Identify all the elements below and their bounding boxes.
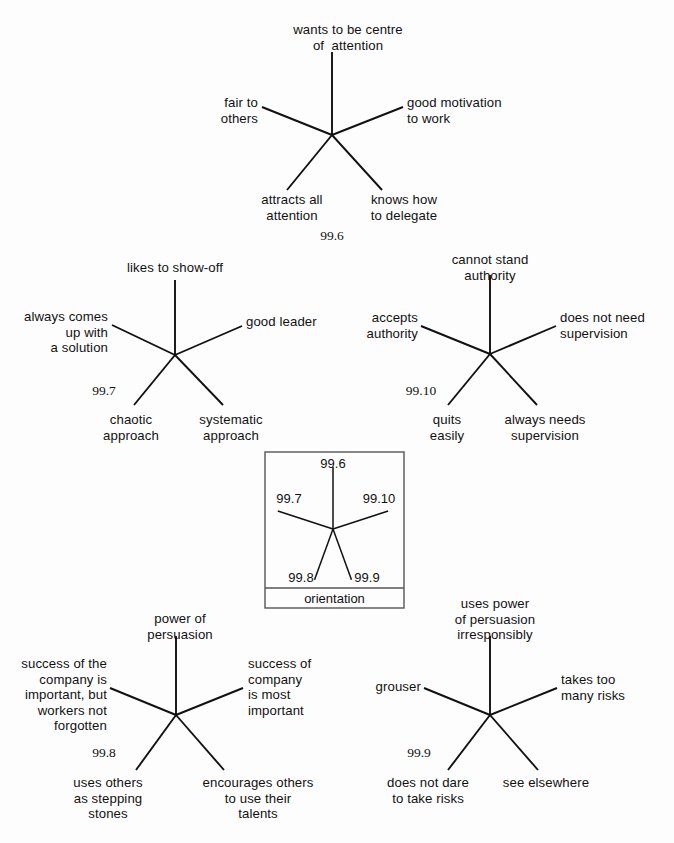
ray-label-lower-right: encourages othersto use theirtalents [203,775,314,822]
star-ray-upper-left [112,325,175,355]
ray-label-lower-left: chaoticapproach [103,412,159,443]
ray-label-lower-left: quitseasily [430,412,464,443]
star-ray-lower-left [287,135,332,190]
ray-label-lower-left: does not dareto take risks [387,775,469,806]
ray-label-lower-right: knows howto delegate [371,192,437,223]
star-ray-upper-left [424,688,490,715]
star-ray-lower-right [332,135,382,190]
star-ray-upper-right [490,688,557,715]
star-ray-upper-right [490,326,556,354]
star-ray-upper-right [176,688,243,715]
ray-label-top: cannot standauthority [452,252,529,283]
legend-ray-99.8 [315,529,333,580]
ray-label-lower-left: attracts allattention [261,192,322,223]
ray-label-lower-left: uses othersas steppingstones [73,775,142,822]
figure-sheet: wants to be centreof attentionfair tooth… [0,0,674,843]
figure-number: 99.9 [407,745,431,761]
legend-ray-99.9 [333,529,351,580]
star-ray-upper-right [332,107,403,135]
legend-label-99.7: 99.7 [276,491,301,506]
star-ray-upper-left [262,107,332,135]
figure-number: 99.10 [406,383,436,399]
legend-ray-99.10 [333,511,388,529]
star-ray-lower-right [175,355,223,405]
ray-label-upper-left: acceptsauthority [367,310,418,341]
legend-label-99.6: 99.6 [320,456,345,471]
legend-title: orientation [304,591,365,606]
legend-label-99.8: 99.8 [288,570,313,585]
ray-label-upper-left: always comesup witha solution [24,309,108,356]
star-ray-lower-left [448,715,490,770]
ray-label-upper-right: takes toomany risks [561,672,625,703]
ray-label-upper-right: good motivationto work [407,95,502,126]
ray-label-top: wants to be centreof attention [293,22,403,53]
star-ray-lower-left [134,355,175,405]
legend-box [265,452,404,608]
ray-label-upper-left: fair toothers [221,95,258,126]
ray-label-top: uses powerof persuasionirresponsibly [455,596,535,643]
ray-label-top: power ofpersuasion [147,611,213,642]
figure-number: 99.8 [92,745,116,761]
star-ray-upper-left [110,688,176,715]
figure-number: 99.7 [92,383,116,399]
ray-label-lower-right: see elsewhere [503,775,589,791]
ray-label-upper-right: success ofcompanyis mostimportant [248,656,311,718]
legend-label-99.10: 99.10 [363,491,396,506]
ray-label-top: likes to show-off [127,260,223,276]
star-ray-lower-right [490,354,537,405]
star-ray-upper-right [175,326,242,355]
ray-label-lower-right: always needssupervision [504,412,585,443]
ray-label-upper-right: good leader [246,314,317,330]
ray-label-lower-right: systematicapproach [199,412,262,443]
legend-ray-99.7 [278,511,333,529]
legend-label-99.9: 99.9 [354,570,379,585]
star-ray-lower-left [136,715,176,770]
star-ray-upper-left [421,326,490,354]
ray-label-upper-left: grouser [376,679,421,695]
ray-label-upper-right: does not needsupervision [560,310,645,341]
star-ray-lower-right [490,715,538,770]
star-ray-lower-left [448,354,490,405]
star-ray-lower-right [176,715,224,770]
figure-number: 99.6 [320,228,344,244]
ray-label-upper-left: success of thecompany isimportant, butwo… [21,656,107,734]
